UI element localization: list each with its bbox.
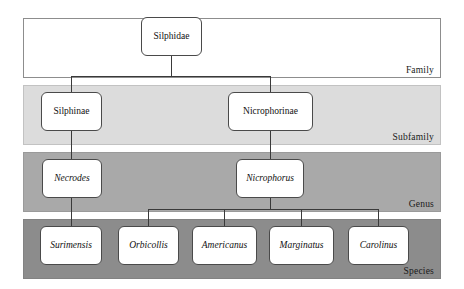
edge-to-orbicollis: [148, 209, 149, 226]
edge-to-marginatus: [301, 209, 302, 226]
edge-silphidae-trunk: [171, 56, 172, 77]
edge-to-americanus: [224, 209, 225, 226]
edge-family-bar: [71, 76, 271, 77]
node-label-nicrophorus: Nicrophorus: [246, 173, 294, 183]
rank-label-subfamily: Subfamily: [393, 132, 434, 142]
rank-label-genus: Genus: [409, 199, 434, 209]
node-necrodes[interactable]: Necrodes: [42, 159, 102, 198]
node-silphinae[interactable]: Silphinae: [41, 92, 102, 131]
edge-to-silphinae: [71, 76, 72, 93]
rank-label-family: Family: [406, 65, 434, 75]
edge-to-carolinus: [378, 209, 379, 226]
edge-to-nicrophorinae: [270, 76, 271, 93]
rank-label-species: Species: [404, 266, 434, 276]
node-label-surimensis: Surimensis: [50, 240, 92, 250]
node-silphidae[interactable]: Silphidae: [141, 17, 202, 56]
node-label-necrodes: Necrodes: [54, 173, 90, 183]
node-marginatus[interactable]: Marginatus: [269, 226, 334, 265]
taxonomy-diagram: Family Subfamily Genus Species Silphidae…: [0, 0, 464, 289]
edge-nicrophorinae-to-nicrophorus: [270, 130, 271, 159]
edge-silphinae-to-necrodes: [71, 130, 72, 159]
node-label-silphinae: Silphinae: [54, 106, 90, 116]
node-label-orbicollis: Orbicollis: [129, 240, 168, 250]
edge-necrodes-to-surimensis: [71, 195, 72, 226]
rank-band-family: Family: [23, 18, 441, 78]
node-label-silphidae: Silphidae: [154, 31, 190, 41]
node-surimensis[interactable]: Surimensis: [40, 226, 102, 265]
edge-species-bar: [148, 209, 378, 210]
node-americanus[interactable]: Americanus: [192, 226, 257, 265]
node-carolinus[interactable]: Carolinus: [348, 226, 409, 265]
node-label-carolinus: Carolinus: [360, 240, 398, 250]
node-label-marginatus: Marginatus: [280, 240, 324, 250]
node-nicrophorinae[interactable]: Nicrophorinae: [228, 92, 313, 131]
node-orbicollis[interactable]: Orbicollis: [118, 226, 179, 265]
node-nicrophorus[interactable]: Nicrophorus: [236, 159, 304, 198]
node-label-nicrophorinae: Nicrophorinae: [243, 106, 298, 116]
node-label-americanus: Americanus: [202, 240, 247, 250]
